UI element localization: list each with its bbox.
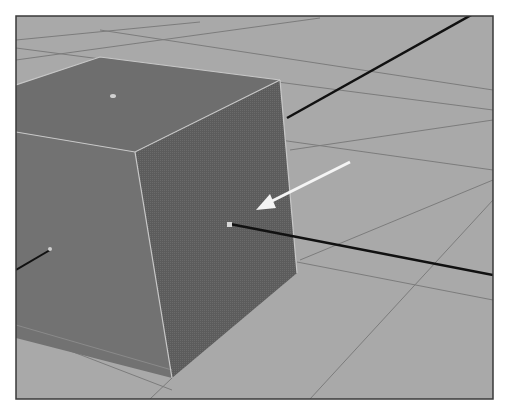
left-face-center-point <box>48 247 52 251</box>
face-center-point[interactable] <box>227 222 232 227</box>
3d-viewport[interactable] <box>0 0 507 414</box>
top-face-center-point <box>110 94 116 98</box>
